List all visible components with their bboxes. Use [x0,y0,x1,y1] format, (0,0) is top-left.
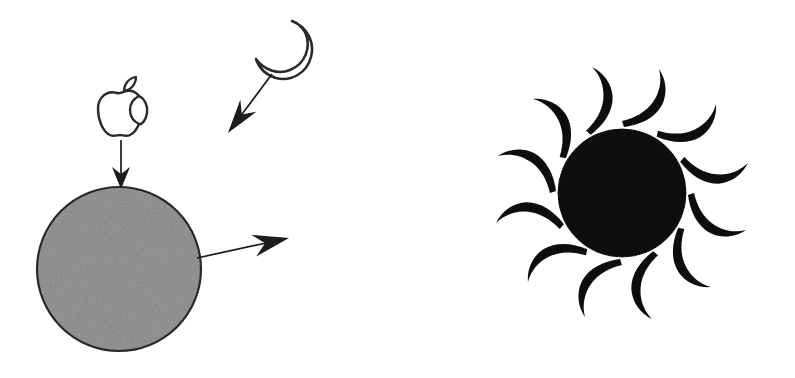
figure-canvas [0,0,795,378]
crescent-moon-icon [256,21,312,79]
sun-ray [498,149,556,193]
planet-circle [37,187,201,351]
sun-ray [688,193,746,237]
moon-diagonal-arrow [220,74,272,139]
right-panel [493,64,751,322]
sun-ray [578,259,622,317]
planet-output-arrow [197,227,291,258]
apple-logo-icon [98,77,147,136]
apple-down-arrow [112,140,130,189]
sun-disc [558,129,686,257]
figure-svg [0,0,795,378]
left-panel [37,21,312,351]
sun-ray [622,69,666,127]
